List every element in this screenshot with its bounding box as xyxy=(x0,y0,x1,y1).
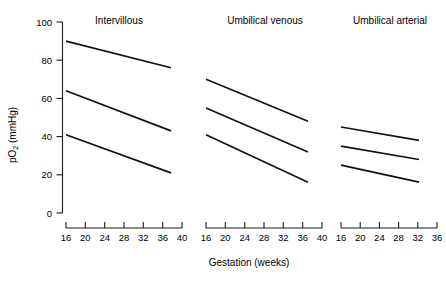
x-ticklabel-p2-24: 24 xyxy=(239,232,250,243)
panel-umbilical-arterial-x-axis: 16 20 24 28 32 36 xyxy=(336,222,443,243)
x-ticklabel-p1-16: 16 xyxy=(61,232,72,243)
x-ticklabel-p2-36: 36 xyxy=(297,232,308,243)
data-line-intervillous-upper xyxy=(66,41,171,68)
x-ticklabel-p3-32: 32 xyxy=(413,232,424,243)
x-ticklabel-p2-32: 32 xyxy=(278,232,289,243)
panel-umbilical-venous-x-axis: 16 20 24 28 32 36 40 xyxy=(201,222,328,243)
panel-umbilical-arterial: Umbilical arterial 16 20 24 28 32 36 xyxy=(336,15,443,243)
panel-umbilical-venous: Umbilical venous 16 20 24 28 32 xyxy=(201,15,328,243)
x-ticklabel-p1-36: 36 xyxy=(157,232,168,243)
data-line-umbilical-arterial-middle xyxy=(341,146,419,159)
y-ticklabel-100: 100 xyxy=(36,17,52,28)
y-ticklabel-80: 80 xyxy=(41,55,52,66)
x-ticklabel-p2-40: 40 xyxy=(317,232,328,243)
chart-figure: pO2 (mmHg) 100 80 60 40 20 0 Intervillou… xyxy=(0,0,446,283)
data-line-umbilical-arterial-lower xyxy=(341,165,419,182)
y-axis: 100 80 60 40 20 0 xyxy=(36,17,62,219)
y-axis-title-unit: (mmHg) xyxy=(7,107,18,146)
x-ticklabel-p2-20: 20 xyxy=(220,232,231,243)
panel-intervillous: Intervillous 16 20 24 28 32 3 xyxy=(61,15,188,243)
x-ticklabel-p2-16: 16 xyxy=(201,232,212,243)
panel-intervillous-x-axis: 16 20 24 28 32 36 40 xyxy=(61,222,188,243)
y-ticklabel-0: 0 xyxy=(47,208,52,219)
panel-umbilical-arterial-lines xyxy=(341,127,419,182)
x-ticklabel-p1-40: 40 xyxy=(177,232,188,243)
panel-intervillous-lines xyxy=(66,41,171,173)
x-ticklabel-p3-16: 16 xyxy=(336,232,347,243)
panel-umbilical-venous-lines xyxy=(206,79,308,182)
y-ticklabel-60: 60 xyxy=(41,93,52,104)
y-ticklabel-20: 20 xyxy=(41,169,52,180)
x-ticklabel-p3-28: 28 xyxy=(393,232,404,243)
svg-text:pO2 (mmHg): pO2 (mmHg) xyxy=(7,107,19,163)
x-ticklabel-p1-24: 24 xyxy=(99,232,110,243)
y-axis-title-main: pO xyxy=(7,150,18,164)
data-line-umbilical-venous-lower xyxy=(206,135,308,183)
x-axis-title: Gestation (weeks) xyxy=(209,257,290,268)
panel-title-umbilical-venous: Umbilical venous xyxy=(227,15,303,26)
x-ticklabel-p3-36: 36 xyxy=(432,232,443,243)
x-ticklabel-p2-28: 28 xyxy=(259,232,270,243)
panel-title-intervillous: Intervillous xyxy=(95,15,143,26)
x-ticklabel-p1-32: 32 xyxy=(138,232,149,243)
data-line-intervillous-lower xyxy=(66,135,171,173)
panel-title-umbilical-arterial: Umbilical arterial xyxy=(353,15,427,26)
x-ticklabel-p1-28: 28 xyxy=(119,232,130,243)
x-ticklabel-p3-24: 24 xyxy=(374,232,385,243)
x-ticklabel-p3-20: 20 xyxy=(355,232,366,243)
y-ticklabel-40: 40 xyxy=(41,131,52,142)
chart-svg: pO2 (mmHg) 100 80 60 40 20 0 Intervillou… xyxy=(0,0,446,283)
data-line-intervillous-middle xyxy=(66,91,171,131)
data-line-umbilical-arterial-upper xyxy=(341,127,419,140)
y-axis-title: pO2 (mmHg) xyxy=(7,107,19,163)
x-ticklabel-p1-20: 20 xyxy=(80,232,91,243)
